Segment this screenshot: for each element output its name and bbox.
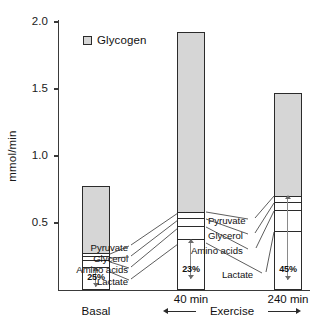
callout-pyruvate-basal: Pyruvate [58,243,128,253]
chart-legend: Glycogen [83,34,146,46]
lactate-arrow-down-40min [188,275,194,279]
callout-leader-lines [0,0,317,329]
category-label-40min: 40 min [161,293,221,305]
y-tick-mark-0.5 [54,222,59,223]
segment-glycogen-240min [275,94,301,195]
group-label-exercise: Exercise [196,305,268,317]
glycogen-swatch-icon [83,36,92,45]
y-tick-label-0.5: 0.5 [7,217,48,229]
callout-amino-acids-240min: Amino acids [191,246,243,256]
y-tick-label-1.5: 1.5 [7,83,48,95]
segment-amino-acids-40min [178,226,204,239]
exercise-arrow-left-icon [163,308,168,314]
lactate-arrow-up-240min [285,195,291,199]
callout-glycerol-basal: Glycerol [58,254,128,264]
y-tick-mark-1.5 [54,88,59,89]
callout-glycerol-240min: Glycerol [208,231,243,241]
bar-240min[interactable]: 45% [274,93,302,289]
y-axis-title: mmol/min [6,111,18,201]
category-label-240min: 240 min [255,293,317,305]
y-tick-mark-2.0 [54,21,59,22]
segment-glycerol-40min [178,218,204,226]
category-label-basal: Basal [66,305,126,317]
segment-glycogen-40min [178,33,204,212]
callout-lactate-240min: Lactate [222,270,253,280]
lactate-arrow-down-240min [285,276,291,280]
callout-lactate-basal: Lactate [58,277,128,287]
callout-pyruvate-240min: Pyruvate [208,216,245,226]
lactate-percent-240min: 45% [275,264,301,274]
x-axis-line [58,290,310,291]
lactate-arrow-up-40min [188,239,194,243]
lactate-percent-40min: 23% [178,264,204,274]
exercise-arrow-right-icon [296,308,301,314]
chart-plot-area: 2.0 1.5 1.0 0.5 mmol/min Glycogen 25% [0,0,317,329]
legend-label-glycogen: Glycogen [97,34,146,46]
y-tick-mark-1.0 [54,155,59,156]
callout-amino-acids-basal: Amino acids [43,265,128,275]
y-tick-label-2.0: 2.0 [7,16,48,28]
